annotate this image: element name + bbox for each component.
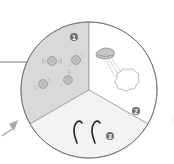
segment-2-badge: 2: [132, 107, 140, 115]
segmented-circle-diagram: 1 2 3: [0, 0, 174, 164]
segment-1-badge: 1: [70, 33, 78, 41]
svg-text:2: 2: [134, 108, 138, 115]
svg-text:3: 3: [108, 133, 112, 140]
segment-3-badge: 3: [106, 132, 114, 140]
svg-text:1: 1: [72, 34, 76, 41]
arrow-icon: [2, 120, 18, 136]
